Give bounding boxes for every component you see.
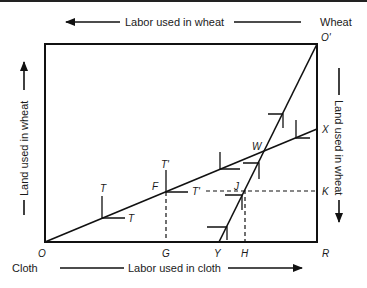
wheat-corner-label: Wheat xyxy=(320,16,352,28)
point-label-O-prime: O' xyxy=(321,32,332,43)
point-label-J: J xyxy=(233,181,240,192)
point-label-W: W xyxy=(252,141,263,152)
wheat-isoquant-2 xyxy=(225,195,242,210)
point-label-O: O xyxy=(38,248,46,259)
point-label-R: R xyxy=(322,248,329,259)
cloth-isoquant-T-prime xyxy=(166,170,188,192)
bottom-axis-label-group: Labor used in cloth xyxy=(60,262,302,274)
top-axis-label-group: Labor used in wheat xyxy=(66,16,301,28)
point-label-Y: Y xyxy=(214,248,222,259)
point-label-X: X xyxy=(321,124,329,135)
cloth-isoquant-T xyxy=(102,196,125,218)
cloth-corner-label: Cloth xyxy=(12,262,38,274)
bottom-axis-label: Labor used in cloth xyxy=(128,262,221,274)
point-label-F: F xyxy=(152,181,159,192)
point-label-T-prime-right: T' xyxy=(192,186,201,197)
cloth-expansion-path-OX xyxy=(45,129,317,242)
point-label-K: K xyxy=(322,186,330,197)
wheat-expansion-path-YO-prime xyxy=(219,44,317,242)
edgeworth-box-diagram: Labor used in wheat Wheat O' Land used i… xyxy=(0,0,367,288)
left-axis-label: Land used in wheat xyxy=(18,101,30,196)
point-label-T-prime-upper: T' xyxy=(161,159,170,170)
top-axis-label: Labor used in wheat xyxy=(125,16,224,28)
edgeworth-box-frame xyxy=(45,44,317,242)
cloth-isoquant-3 xyxy=(220,152,240,169)
right-axis-label-group: Land used in wheat xyxy=(333,68,345,222)
point-label-H: H xyxy=(241,248,249,259)
right-axis-label: Land used in wheat xyxy=(333,100,345,195)
point-label-G: G xyxy=(162,248,170,259)
left-axis-label-group: Land used in wheat xyxy=(18,62,30,215)
point-label-T-upper: T xyxy=(100,183,107,194)
point-label-T-right: T xyxy=(128,213,135,224)
